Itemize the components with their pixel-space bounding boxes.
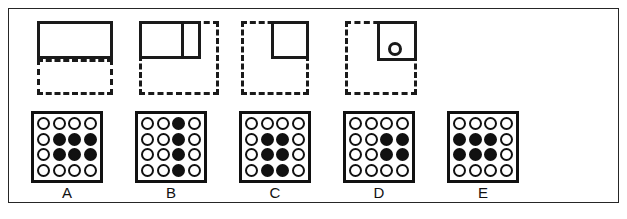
figure-frame: ABCDE bbox=[8, 8, 619, 203]
empty-dot bbox=[68, 164, 81, 177]
dot-grid bbox=[31, 111, 103, 183]
empty-dot bbox=[292, 133, 305, 146]
empty-dot bbox=[365, 117, 378, 130]
answer-option-c[interactable]: C bbox=[227, 111, 331, 203]
answer-option-a[interactable]: A bbox=[19, 111, 123, 203]
filled-dot bbox=[172, 133, 185, 146]
empty-dot bbox=[188, 164, 201, 177]
dot-cell bbox=[260, 116, 276, 132]
filled-dot bbox=[453, 133, 466, 146]
dot-cell bbox=[187, 116, 203, 132]
dot-cell bbox=[348, 132, 364, 148]
bottom-row-dot-grids: ABCDE bbox=[9, 109, 620, 204]
dot-cell bbox=[156, 116, 172, 132]
empty-dot bbox=[349, 164, 362, 177]
dot-grid bbox=[239, 111, 311, 183]
dot-grid bbox=[343, 111, 415, 183]
dot-cell bbox=[452, 163, 468, 179]
answer-option-b[interactable]: B bbox=[123, 111, 227, 203]
empty-dot bbox=[37, 133, 50, 146]
dot-cell bbox=[260, 163, 276, 179]
empty-dot bbox=[245, 148, 258, 161]
empty-dot bbox=[188, 117, 201, 130]
filled-dot bbox=[68, 133, 81, 146]
empty-dot bbox=[500, 117, 513, 130]
dot-cell bbox=[291, 116, 307, 132]
empty-dot bbox=[500, 164, 513, 177]
filled-dot bbox=[84, 133, 97, 146]
answer-option-d[interactable]: D bbox=[331, 111, 435, 203]
answer-option-e[interactable]: E bbox=[435, 111, 539, 203]
dot-cell bbox=[499, 163, 515, 179]
empty-dot bbox=[157, 148, 170, 161]
dot-cell bbox=[67, 116, 83, 132]
dot-cell bbox=[156, 147, 172, 163]
filled-dot bbox=[453, 148, 466, 161]
empty-dot bbox=[53, 117, 66, 130]
dot-cell bbox=[260, 132, 276, 148]
dot-cell bbox=[379, 132, 395, 148]
empty-dot bbox=[276, 117, 289, 130]
dot-cell bbox=[187, 132, 203, 148]
empty-dot bbox=[141, 133, 154, 146]
dot-cell bbox=[52, 147, 68, 163]
option-label-e: E bbox=[435, 183, 531, 203]
empty-dot bbox=[245, 117, 258, 130]
filled-dot bbox=[484, 133, 497, 146]
empty-dot bbox=[141, 148, 154, 161]
dot-cell bbox=[499, 147, 515, 163]
filled-dot bbox=[261, 148, 274, 161]
dot-cell bbox=[244, 116, 260, 132]
empty-dot bbox=[469, 117, 482, 130]
empty-dot bbox=[453, 164, 466, 177]
option-label-c: C bbox=[227, 183, 323, 203]
dot-cell bbox=[483, 116, 499, 132]
filled-dot bbox=[469, 133, 482, 146]
empty-dot bbox=[157, 117, 170, 130]
dot-cell bbox=[67, 147, 83, 163]
dot-cell bbox=[379, 116, 395, 132]
empty-dot bbox=[349, 148, 362, 161]
empty-dot bbox=[484, 164, 497, 177]
dot-cell bbox=[83, 163, 99, 179]
empty-dot bbox=[349, 133, 362, 146]
dot-cell bbox=[140, 163, 156, 179]
dot-cell bbox=[275, 163, 291, 179]
wide-rectangle-over-dashed-rectangle bbox=[23, 17, 133, 105]
empty-dot bbox=[500, 133, 513, 146]
empty-dot bbox=[396, 117, 409, 130]
filled-dot bbox=[276, 164, 289, 177]
dot-cell bbox=[395, 132, 411, 148]
dot-cell bbox=[483, 163, 499, 179]
empty-dot bbox=[157, 133, 170, 146]
filled-dot bbox=[172, 117, 185, 130]
dot-cell bbox=[395, 147, 411, 163]
solid-shape bbox=[271, 21, 309, 59]
empty-dot bbox=[365, 164, 378, 177]
empty-dot bbox=[188, 148, 201, 161]
dot-cell bbox=[52, 163, 68, 179]
empty-dot bbox=[141, 117, 154, 130]
dot-cell bbox=[83, 147, 99, 163]
empty-dot bbox=[37, 148, 50, 161]
small-square-in-dashed-square bbox=[231, 17, 341, 105]
dot-cell bbox=[275, 116, 291, 132]
empty-dot bbox=[469, 164, 482, 177]
filled-dot bbox=[53, 133, 66, 146]
dot-cell bbox=[156, 132, 172, 148]
dot-cell bbox=[452, 147, 468, 163]
divided-rectangle-over-dashed-square bbox=[127, 17, 237, 105]
dot-cell bbox=[379, 163, 395, 179]
filled-dot bbox=[380, 148, 393, 161]
dot-cell bbox=[36, 163, 52, 179]
empty-dot bbox=[84, 117, 97, 130]
empty-dot bbox=[68, 117, 81, 130]
dot-cell bbox=[348, 116, 364, 132]
filled-dot bbox=[53, 148, 66, 161]
dot-cell bbox=[468, 147, 484, 163]
dot-cell bbox=[275, 132, 291, 148]
empty-dot bbox=[157, 164, 170, 177]
dot-cell bbox=[483, 132, 499, 148]
dot-cell bbox=[52, 132, 68, 148]
dot-cell bbox=[171, 163, 187, 179]
